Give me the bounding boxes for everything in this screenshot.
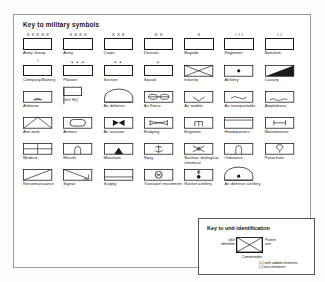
symbol-label: Mountain — [104, 156, 144, 161]
plain-box-icon: X X X X X — [23, 33, 63, 51]
air-transportable-icon — [224, 85, 264, 103]
symbol-label: Headquarters — [224, 130, 264, 135]
unit-box — [23, 38, 52, 50]
symbol-cell-air-defence-artillery[interactable]: Air defence artillery — [224, 164, 264, 190]
note-less-elements: (-) less elements — [259, 265, 297, 269]
symbol-label: Air Force — [144, 104, 184, 109]
reconnaissance-icon — [23, 164, 63, 182]
symbol-cell-brigade[interactable]: X Brigade — [184, 33, 224, 59]
symbol-label: Medical — [23, 156, 63, 161]
symbol-cell-unit-hq[interactable]: Unit HQ — [63, 85, 103, 111]
plain-box-icon: X X — [144, 33, 184, 51]
symbol-label: Cavalry — [265, 78, 305, 83]
symbol-cell-parachute[interactable]: Parachute — [265, 138, 305, 164]
unit-box — [184, 38, 213, 50]
symbol-cell-airborne[interactable]: Airborne — [23, 85, 63, 111]
symbol-label: Company/Battery — [23, 78, 63, 83]
symbol-cell-regiment[interactable]: I I I Regiment — [224, 33, 264, 59]
unit-box — [63, 65, 92, 77]
symbol-label: Reconnaissance — [23, 182, 63, 187]
plain-box-icon: I I — [265, 33, 305, 51]
symbol-cell-mountain[interactable]: Mountain — [104, 138, 144, 164]
symbol-label: Missile — [63, 156, 103, 161]
unit-identifier-label: Unit identifier — [211, 238, 235, 246]
symbol-label: Regiment — [224, 51, 264, 56]
plain-box-icon: • • — [104, 59, 144, 77]
symbol-cell-transport[interactable]: Transport movement — [144, 164, 184, 190]
symbol-row: Anti-tank Armour — [23, 112, 305, 138]
symbol-label: Artillery — [224, 78, 264, 83]
engineer-icon — [184, 112, 224, 130]
echelon-marker: X X X X — [63, 33, 93, 38]
symbol-row: Airborne Unit HQ — [23, 85, 305, 111]
symbol-label: Air defence artillery — [224, 182, 264, 187]
anti-tank-triangle-icon — [23, 112, 63, 130]
symbol-label: Army — [63, 51, 103, 56]
air-mobile-icon — [184, 85, 224, 103]
symbol-label: Air transportable — [224, 104, 264, 109]
symbol-cell-nbc[interactable]: Nuclear, biological, chemical — [184, 138, 224, 164]
symbol-cell-division[interactable]: X X Division — [144, 33, 184, 59]
symbol-cell-corps[interactable]: X X X Corps — [104, 33, 144, 59]
echelon-marker: X — [184, 33, 214, 38]
symbol-cell-air-aviation[interactable]: Air aviation — [104, 112, 144, 138]
symbol-cell-anti-tank[interactable]: Anti-tank — [23, 112, 63, 138]
symbol-cell-air-mobile[interactable]: Air mobile — [184, 85, 224, 111]
symbol-cell-air-force[interactable]: Air Force — [144, 85, 184, 111]
unit-identifier-line2: identifier — [211, 242, 235, 246]
supply-icon — [104, 164, 144, 182]
symbol-cell-rocket-artillery[interactable]: Rocket artillery — [184, 164, 224, 190]
symbol-cell-amphibious[interactable]: Amphibious — [265, 85, 305, 111]
symbol-label: Corps — [104, 51, 144, 56]
bridging-icon — [144, 112, 184, 130]
symbol-cell-platoon[interactable]: • • • Platoon — [63, 59, 103, 85]
symbol-cell-supply[interactable]: Supply — [104, 164, 144, 190]
symbol-cell-artillery[interactable]: Artillery — [224, 59, 264, 85]
symbol-cell-battalion[interactable]: I I Battalion — [265, 33, 305, 59]
unit-key-symbol — [236, 237, 263, 253]
symbol-cell-engineer[interactable]: Engineer — [184, 112, 224, 138]
symbol-label: Transport movement — [144, 182, 184, 187]
symbol-label: Engineer — [184, 130, 224, 135]
symbol-label: Parachute — [265, 156, 305, 161]
symbol-cell-headquarters[interactable]: Headquarters — [224, 112, 264, 138]
page-title: Key to military symbols — [23, 21, 99, 28]
symbol-label: Maintenance — [265, 130, 305, 135]
symbol-label: Section — [104, 78, 144, 83]
amphibious-icon — [265, 85, 305, 103]
symbol-label: Battalion — [265, 51, 305, 56]
symbol-cell-company-battery[interactable]: I Company/Battery — [23, 59, 63, 85]
plain-box-icon: • — [144, 59, 184, 77]
air-defence-arc-icon — [104, 85, 144, 103]
symbol-row: X X X X X Army Group X X X X Army X X X — [23, 33, 305, 59]
signal-icon — [63, 164, 103, 182]
air-aviation-rotor-icon — [104, 112, 144, 130]
symbol-cell-navy[interactable]: Navy — [144, 138, 184, 164]
symbol-label: Bridging — [144, 130, 184, 135]
symbol-cell-medical[interactable]: Medical — [23, 138, 63, 164]
symbol-cell-reconnaissance[interactable]: Reconnaissance — [23, 164, 63, 190]
unit-key-notes: (+) with added elements (-) less element… — [259, 261, 297, 270]
infantry-cross-icon — [184, 59, 224, 77]
symbol-cell-army[interactable]: X X X X Army — [63, 33, 103, 59]
symbol-label: Division — [144, 51, 184, 56]
symbol-cell-cavalry[interactable]: Cavalry — [265, 59, 305, 85]
nbc-icon — [184, 138, 224, 156]
symbol-cell-army-group[interactable]: X X X X X Army Group — [23, 33, 63, 59]
symbol-cell-infantry[interactable]: Infantry — [184, 59, 224, 85]
symbol-cell-armour[interactable]: Armour — [63, 112, 103, 138]
symbol-cell-missile[interactable]: Missile — [63, 138, 103, 164]
symbol-cell-air-defence[interactable]: Air defence — [104, 85, 144, 111]
symbol-cell-section[interactable]: • • Section — [104, 59, 144, 85]
symbol-cell-squad[interactable]: • Squad — [144, 59, 184, 85]
symbol-cell-air-transportable[interactable]: Air transportable — [224, 85, 264, 111]
artillery-dot-icon — [224, 59, 264, 77]
symbol-cell-maintenance[interactable]: Maintenance — [265, 112, 305, 138]
symbol-cell-ordnance[interactable]: Ordnance — [224, 138, 264, 164]
symbol-cell-bridging[interactable]: Bridging — [144, 112, 184, 138]
cavalry-diagonal-icon — [265, 59, 305, 77]
symbol-row: Medical Missile — [23, 138, 305, 164]
navy-anchor-icon — [144, 138, 184, 156]
symbol-cell-signal[interactable]: Signal — [63, 164, 103, 190]
unit-box — [144, 65, 173, 77]
